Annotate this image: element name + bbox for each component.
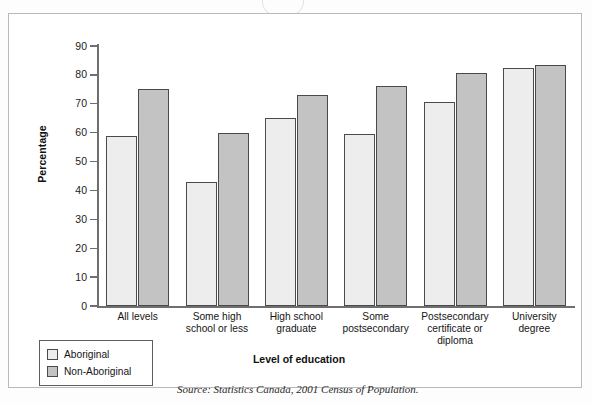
x-axis-category-label-line: diploma — [403, 335, 507, 347]
y-axis-tick-label: 30 — [61, 214, 87, 225]
y-axis-tick-label-wrap: 60 — [57, 127, 87, 138]
legend-label-aboriginal: Aboriginal — [64, 349, 109, 360]
x-axis-category-label-line: degree — [482, 323, 586, 335]
y-axis-tick-label: 40 — [61, 185, 87, 196]
legend-swatch-aboriginal — [47, 349, 58, 360]
y-axis-tick-label-wrap: 50 — [57, 156, 87, 167]
bar-non-aboriginal — [456, 73, 487, 306]
bar-aboriginal — [344, 134, 375, 306]
legend-item-non-aboriginal: Non-Aboriginal — [47, 363, 152, 380]
y-axis-tick-label-wrap: 70 — [57, 98, 87, 109]
y-axis-tick — [90, 45, 97, 46]
bar-aboriginal — [265, 118, 296, 306]
y-axis-tick-label: 0 — [61, 301, 87, 312]
y-axis-tick — [90, 219, 97, 220]
y-axis-tick — [90, 132, 97, 133]
bar-non-aboriginal — [138, 89, 169, 306]
plot-area — [98, 46, 574, 307]
y-axis-tick-label: 20 — [61, 243, 87, 254]
y-axis-tick-label-wrap: 90 — [57, 41, 87, 52]
y-axis-tick — [90, 305, 97, 306]
y-axis-title: Percentage — [36, 109, 48, 199]
y-axis-tick-label: 50 — [61, 156, 87, 167]
y-axis-tick-label-wrap: 10 — [57, 272, 87, 283]
chart-legend: Aboriginal Non-Aboriginal — [39, 340, 153, 386]
figure-frame: Percentage 0102030405060708090 All level… — [8, 13, 582, 388]
y-axis-tick — [90, 190, 97, 191]
bar-aboriginal — [503, 68, 534, 306]
y-axis-tick-label: 90 — [61, 41, 87, 52]
bar-aboriginal — [106, 136, 137, 306]
bar-non-aboriginal — [376, 86, 407, 306]
x-axis-category-label: Universitydegree — [482, 311, 586, 335]
y-axis-tick-label-wrap: 0 — [57, 301, 87, 312]
x-axis-title: Level of education — [207, 353, 391, 365]
bar-non-aboriginal — [535, 65, 566, 306]
y-axis-tick-label: 60 — [61, 127, 87, 138]
bar-non-aboriginal — [297, 95, 328, 306]
y-axis-tick — [90, 74, 97, 75]
bar-aboriginal — [186, 182, 217, 306]
y-axis-tick-label-wrap: 20 — [57, 243, 87, 254]
y-axis-tick-label: 70 — [61, 98, 87, 109]
y-axis-tick-label: 80 — [61, 69, 87, 80]
source-note: Source: Statistics Canada, 2001 Census o… — [177, 383, 419, 395]
x-axis-category-label-line: University — [482, 311, 586, 323]
legend-swatch-non-aboriginal — [47, 366, 58, 377]
legend-label-non-aboriginal: Non-Aboriginal — [64, 366, 131, 377]
bar-non-aboriginal — [218, 133, 249, 306]
y-axis-tick — [90, 103, 97, 104]
y-axis-tick — [90, 276, 97, 277]
y-axis-tick — [90, 161, 97, 162]
y-axis-tick-label-wrap: 30 — [57, 214, 87, 225]
bar-aboriginal — [424, 102, 455, 306]
legend-item-aboriginal: Aboriginal — [47, 346, 152, 363]
y-axis-tick — [90, 248, 97, 249]
y-axis-tick-label-wrap: 40 — [57, 185, 87, 196]
y-axis-tick-label-wrap: 80 — [57, 69, 87, 80]
y-axis-tick-label: 10 — [61, 272, 87, 283]
